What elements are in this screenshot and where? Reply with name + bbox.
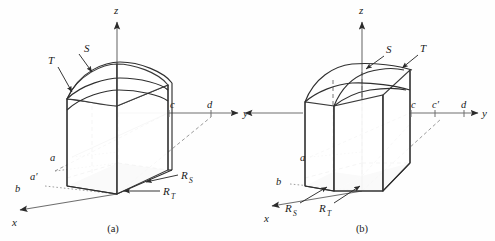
label-region-RS-main: R	[284, 202, 292, 214]
label-point-b: b	[15, 183, 20, 194]
caption-panel-b: (b)	[356, 223, 369, 235]
label-x-axis: x	[11, 216, 17, 228]
label-point-a: a	[300, 152, 305, 163]
figure-container: z y x S T a a′ b c d R S R T (a)	[0, 0, 495, 241]
label-region-RT-main: R	[162, 185, 170, 197]
label-point-c-prime: c′	[432, 99, 440, 110]
label-z-axis: z	[358, 4, 364, 16]
label-y-axis: y	[481, 107, 487, 119]
label-point-a: a	[50, 152, 55, 163]
label-region-RS-sub: S	[293, 209, 297, 218]
solid-left-face	[67, 99, 117, 194]
label-surface-T: T	[420, 42, 427, 54]
label-point-c: c	[170, 99, 175, 110]
label-region-RT-main: R	[318, 202, 326, 214]
solid-left-face	[305, 102, 334, 191]
solid-mid-face	[334, 95, 383, 191]
label-z-axis: z	[113, 4, 119, 16]
label-point-c: c	[411, 99, 416, 110]
label-surface-S: S	[386, 43, 392, 55]
label-surface-T: T	[48, 54, 55, 66]
caption-panel-a: (a)	[107, 223, 119, 235]
label-surface-S: S	[84, 42, 90, 54]
label-region-RS-main: R	[180, 169, 188, 181]
label-point-a-prime: a′	[30, 171, 38, 182]
label-x-axis: x	[263, 212, 269, 224]
label-point-d: d	[461, 99, 467, 110]
label-region-RS-sub: S	[189, 176, 193, 185]
label-point-d: d	[207, 99, 213, 110]
diagram-canvas: z y x S T a a′ b c d R S R T (a)	[0, 0, 495, 241]
label-point-b: b	[276, 176, 281, 187]
